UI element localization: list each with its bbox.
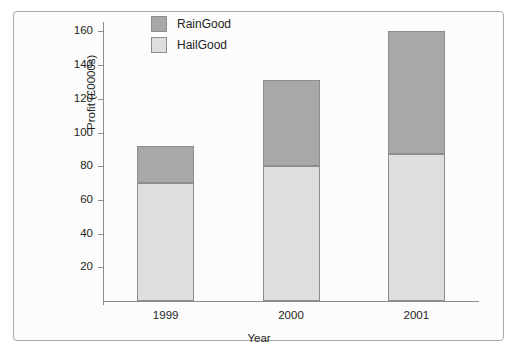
y-tick-120 [98,99,103,100]
y-axis-title: Profit (£0000s) [85,55,97,130]
bar-group-1999[interactable] [137,18,194,301]
bar-segment-hailgood-1999[interactable] [137,183,194,301]
bar-segment-raingood-2001[interactable] [388,31,445,154]
plot-area: 20406080100120140160 199920002001 Profit… [103,18,479,305]
chart-figure: RainGood HailGood 20406080100120140160 1… [0,0,518,354]
bar-segment-raingood-2000[interactable] [263,80,320,166]
y-tick-label-40: 40 [47,227,93,239]
bar-group-2001[interactable] [388,18,445,301]
bar-group-2000[interactable] [263,18,320,301]
y-tick-60 [98,200,103,201]
y-tick-label-20: 20 [47,260,93,272]
y-tick-label-160: 160 [47,24,93,36]
x-axis-title: Year [0,332,518,344]
x-tick-label-1999: 1999 [126,309,206,321]
x-axis-line [103,301,479,302]
y-tick-160 [98,31,103,32]
x-tick-label-2001: 2001 [376,309,456,321]
y-axis-line [103,22,104,305]
bar-segment-raingood-1999[interactable] [137,146,194,183]
y-tick-40 [98,234,103,235]
y-tick-140 [98,65,103,66]
bar-segment-hailgood-2001[interactable] [388,154,445,301]
bar-segment-hailgood-2000[interactable] [263,166,320,301]
y-tick-100 [98,133,103,134]
y-tick-80 [98,166,103,167]
x-tick-label-2000: 2000 [251,309,331,321]
y-tick-label-60: 60 [47,193,93,205]
y-tick-20 [98,267,103,268]
y-tick-label-80: 80 [47,159,93,171]
